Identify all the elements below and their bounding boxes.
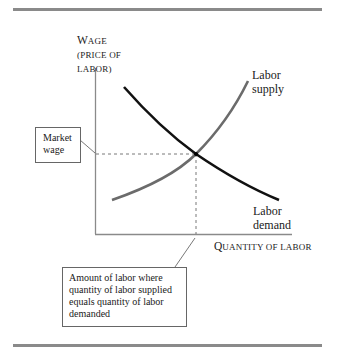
market-wage-callout: Market wage <box>35 127 81 163</box>
labor-demand-label: Labor demand <box>253 204 291 232</box>
equilibrium-leader-line <box>175 238 195 267</box>
labor-supply-label: Labor supply <box>252 68 284 96</box>
market-wage-leader-line <box>80 140 95 153</box>
y-axis-label: WAGE (PRICE OF LABOR) <box>77 34 121 76</box>
equilibrium-point <box>194 152 198 156</box>
labor-demand-curve <box>124 87 279 200</box>
x-axis-label: QUANTITY OF LABOR <box>214 240 312 254</box>
equilibrium-quantity-callout: Amount of labor where quantity of labor … <box>62 267 187 327</box>
labor-market-diagram: WAGE (PRICE OF LABOR) Labor supply Labor… <box>0 0 340 362</box>
